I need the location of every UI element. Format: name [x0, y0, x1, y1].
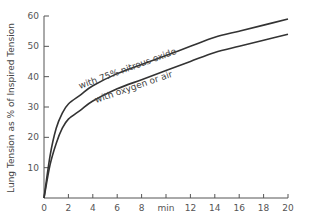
x-tick-label: 12 [185, 203, 196, 213]
y-tick-label: 20 [28, 132, 40, 142]
x-tick-label: 18 [258, 203, 270, 213]
x-tick-label: 20 [282, 203, 294, 213]
x-tick-label: 8 [139, 203, 145, 213]
chart: 02468min1214161820102030405060 Lung Tens… [0, 0, 309, 222]
x-tick-label: 16 [233, 203, 245, 213]
x-tick-label: 2 [66, 203, 72, 213]
x-tick-label: 4 [90, 203, 96, 213]
y-tick-label: 10 [28, 163, 40, 173]
y-axis-label: Lung Tension as % of Inspired Tension [6, 23, 16, 193]
y-tick-label: 60 [28, 11, 40, 21]
x-tick-label: 14 [209, 203, 221, 213]
x-tick-label: 0 [41, 203, 47, 213]
x-tick-label: 6 [114, 203, 120, 213]
y-tick-label: 40 [28, 72, 40, 82]
curve-nitrous-oxide [44, 19, 288, 198]
x-tick-label: min [158, 203, 175, 213]
y-tick-label: 30 [28, 102, 40, 112]
axes: 02468min1214161820102030405060 [28, 11, 294, 213]
y-tick-label: 50 [28, 41, 40, 51]
curves [44, 19, 288, 198]
